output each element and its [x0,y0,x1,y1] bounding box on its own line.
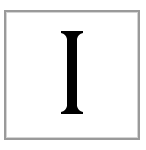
letter-i-icon [0,0,146,150]
letter-glyph: I [0,0,146,150]
